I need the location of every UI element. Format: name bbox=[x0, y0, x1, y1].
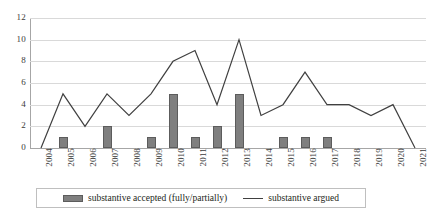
x-tick-label-2004: 2004 bbox=[45, 148, 54, 182]
legend-label-substantive-argued: substantive argued bbox=[268, 193, 339, 203]
x-tick-label-2009: 2009 bbox=[155, 148, 164, 182]
x-tick-label-2014: 2014 bbox=[265, 148, 274, 182]
x-tick-label-2018: 2018 bbox=[353, 148, 362, 182]
y-tick-label-12: 12 bbox=[0, 13, 26, 22]
y-tick-label-0: 0 bbox=[0, 143, 26, 152]
x-tick-label-2008: 2008 bbox=[133, 148, 142, 182]
y-tick-label-6: 6 bbox=[0, 78, 26, 87]
x-tick-label-2012: 2012 bbox=[221, 148, 230, 182]
x-tick-label-2015: 2015 bbox=[287, 148, 296, 182]
x-tick-label-2020: 2020 bbox=[397, 148, 406, 182]
bar-swatch-icon bbox=[63, 195, 83, 202]
y-tick-label-10: 10 bbox=[0, 35, 26, 44]
x-tick-label-2013: 2013 bbox=[243, 148, 252, 182]
legend-entry-substantive-accepted: substantive accepted (fully/partially) bbox=[63, 193, 227, 203]
line-series-substantive-argued bbox=[30, 18, 426, 148]
x-axis-labels: 2004200520062007200820092010201120122013… bbox=[30, 150, 426, 184]
line-swatch-icon bbox=[243, 198, 263, 199]
x-tick-label-2010: 2010 bbox=[177, 148, 186, 182]
x-tick-label-2011: 2011 bbox=[199, 148, 208, 182]
y-tick-label-2: 2 bbox=[0, 121, 26, 130]
x-tick-label-2019: 2019 bbox=[375, 148, 384, 182]
x-tick-label-2021: 2021 bbox=[419, 148, 428, 182]
y-tick-label-4: 4 bbox=[0, 100, 26, 109]
y-tick-label-8: 8 bbox=[0, 56, 26, 65]
x-tick-label-2007: 2007 bbox=[111, 148, 120, 182]
plot-area bbox=[30, 18, 426, 148]
chart-legend: substantive accepted (fully/partially) s… bbox=[36, 188, 366, 208]
x-tick-label-2006: 2006 bbox=[89, 148, 98, 182]
legend-entry-substantive-argued: substantive argued bbox=[243, 193, 339, 203]
x-tick-label-2017: 2017 bbox=[331, 148, 340, 182]
chart-figure: 024681012 200420052006200720082009201020… bbox=[0, 0, 434, 216]
x-tick-label-2005: 2005 bbox=[67, 148, 76, 182]
y-axis-labels: 024681012 bbox=[0, 18, 26, 148]
legend-label-substantive-accepted: substantive accepted (fully/partially) bbox=[88, 193, 227, 203]
x-tick-label-2016: 2016 bbox=[309, 148, 318, 182]
